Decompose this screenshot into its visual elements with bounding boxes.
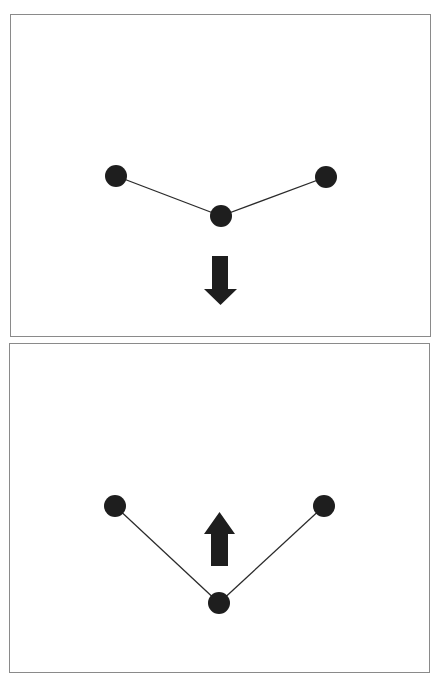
- bottom-diagram: [10, 344, 431, 674]
- node-left: [105, 165, 127, 187]
- node-left: [104, 495, 126, 517]
- node-right: [313, 495, 335, 517]
- arrow-up-icon: [204, 512, 235, 566]
- edge-left-center: [115, 506, 219, 603]
- arrow-down-icon: [204, 256, 237, 305]
- node-center: [210, 205, 232, 227]
- top-panel: Bent chain with downward arrow: [10, 14, 431, 337]
- edge-center-right: [221, 177, 326, 216]
- edge-left-center: [116, 176, 221, 216]
- top-diagram: [11, 15, 432, 338]
- node-right: [315, 166, 337, 188]
- bottom-panel: Deeper V chain with upward arrow: [9, 343, 430, 673]
- edge-center-right: [219, 506, 324, 603]
- node-center: [208, 592, 230, 614]
